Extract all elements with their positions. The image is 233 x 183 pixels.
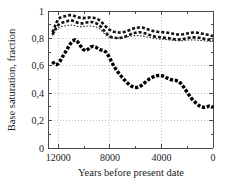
x-tick-label: 12000: [46, 152, 71, 163]
y-tick-label: 0,8: [32, 33, 45, 44]
x-tick-label: 8000: [100, 152, 120, 163]
y-tick-label: 0,4: [32, 88, 45, 99]
y-tick-label: 1: [39, 6, 44, 17]
plot-area-background: [48, 11, 213, 148]
y-tick-label: 0,6: [32, 60, 45, 71]
base-saturation-line-chart: 10,80,60,40,20 12000800040000 Base satur…: [0, 0, 233, 183]
y-tick-labels: 10,80,60,40,20: [32, 6, 45, 154]
x-tick-label: 0: [211, 152, 216, 163]
x-tick-labels: 12000800040000: [46, 152, 216, 163]
y-tick-label: 0: [39, 143, 44, 154]
x-axis-title: Years before present date: [78, 167, 184, 178]
y-tick-label: 0,2: [32, 115, 45, 126]
x-tick-label: 4000: [151, 152, 171, 163]
y-axis-title: Base saturation, fraction: [6, 28, 17, 131]
chart-figure: 10,80,60,40,20 12000800040000 Base satur…: [0, 0, 233, 183]
